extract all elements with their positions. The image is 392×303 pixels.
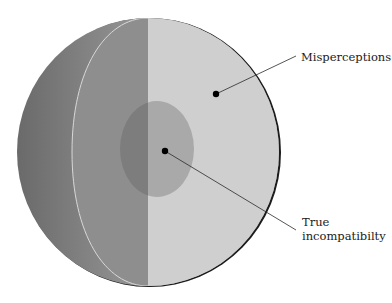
sphere-diagram: Misperceptions True incompatibilty [0,0,392,303]
misperceptions-label: Misperceptions [301,50,391,64]
inner-core [120,101,194,197]
diagram-canvas [0,0,392,303]
misperceptions-dot [213,91,219,97]
true-incompatibility-label-line2: incompatibilty [302,229,386,243]
true-incompatibility-label-line1: True [302,215,329,229]
true-incompatibility-dot [162,148,168,154]
